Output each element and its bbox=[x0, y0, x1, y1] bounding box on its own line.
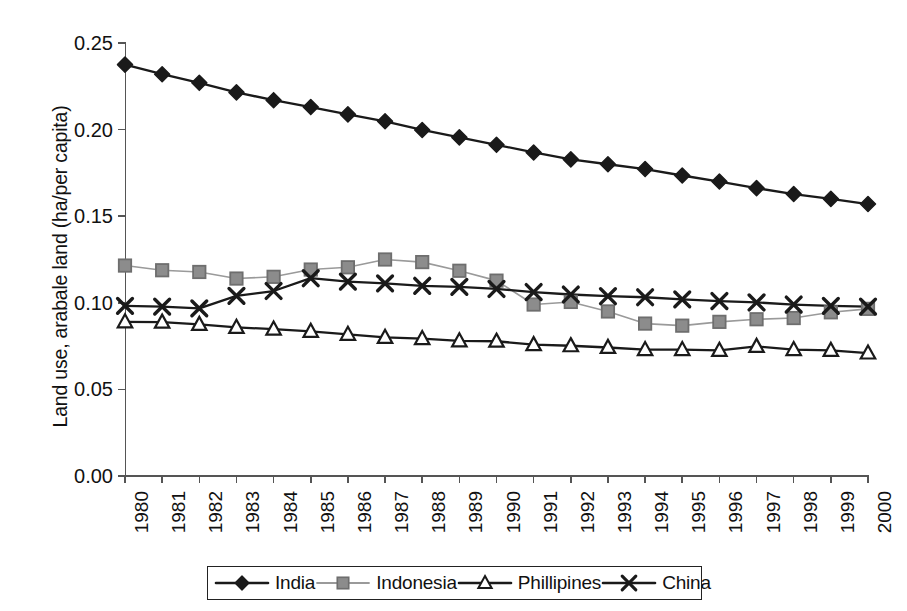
data-point bbox=[676, 319, 688, 331]
x-tick-label: 1994 bbox=[652, 491, 671, 533]
x-tick-label: 1998 bbox=[801, 491, 820, 533]
data-point bbox=[119, 259, 131, 271]
x-tick-label: 1986 bbox=[355, 491, 374, 533]
x-tick-label: 1982 bbox=[206, 491, 225, 533]
x-tick-label: 1980 bbox=[132, 491, 151, 533]
data-point bbox=[267, 271, 279, 283]
x-tick-label: 1988 bbox=[429, 491, 448, 533]
data-point bbox=[788, 312, 800, 324]
data-point bbox=[675, 168, 690, 183]
x-tick-mark bbox=[570, 475, 572, 483]
x-tick-mark bbox=[607, 475, 609, 483]
data-point bbox=[749, 181, 764, 196]
legend-marker-open-triangle bbox=[457, 572, 513, 594]
legend-marker-filled-diamond bbox=[214, 572, 270, 594]
legend-label: China bbox=[662, 572, 711, 594]
data-point bbox=[453, 265, 465, 277]
data-point bbox=[192, 75, 207, 90]
legend-marker-cross-x bbox=[601, 572, 657, 594]
legend-label: India bbox=[275, 572, 315, 594]
x-tick-label: 1984 bbox=[281, 491, 300, 533]
data-point bbox=[415, 122, 430, 137]
y-tick-label: 0.15 bbox=[74, 206, 113, 226]
data-point bbox=[193, 266, 205, 278]
data-point bbox=[750, 313, 762, 325]
x-tick-mark bbox=[830, 475, 832, 483]
data-point bbox=[340, 107, 355, 122]
data-point bbox=[342, 261, 354, 273]
data-point bbox=[639, 317, 651, 329]
plot-area: 0.000.050.100.150.200.25 198019811982198… bbox=[125, 43, 868, 475]
x-tick-label: 1991 bbox=[541, 491, 560, 533]
data-point bbox=[489, 137, 504, 152]
data-point bbox=[118, 57, 133, 72]
x-tick-mark bbox=[756, 475, 758, 483]
legend-marker-filled-square bbox=[315, 572, 371, 594]
x-tick-mark bbox=[793, 475, 795, 483]
x-tick-label: 1987 bbox=[392, 491, 411, 533]
x-tick-label: 1992 bbox=[578, 491, 597, 533]
data-point bbox=[526, 145, 541, 160]
data-point bbox=[527, 298, 539, 310]
data-point bbox=[378, 114, 393, 129]
markers-india bbox=[118, 57, 876, 211]
x-tick-mark bbox=[644, 475, 646, 483]
data-point bbox=[156, 264, 168, 276]
data-point bbox=[303, 100, 318, 115]
x-tick-label: 1996 bbox=[726, 491, 745, 533]
legend-item-india[interactable]: India bbox=[214, 572, 315, 594]
data-point bbox=[638, 162, 653, 177]
data-point bbox=[712, 174, 727, 189]
data-point bbox=[452, 130, 467, 145]
data-point bbox=[379, 253, 391, 265]
x-tick-mark bbox=[867, 475, 869, 483]
legend-item-china[interactable]: China bbox=[601, 572, 711, 594]
chart-container: Land use, arabale land (ha/per capita) 0… bbox=[0, 0, 907, 611]
x-tick-label: 1997 bbox=[764, 491, 783, 533]
y-tick-label: 0.10 bbox=[74, 293, 113, 313]
y-tick-label: 0.00 bbox=[74, 466, 113, 486]
x-tick-mark bbox=[199, 475, 201, 483]
data-point bbox=[563, 152, 578, 167]
legend-label: Phillipines bbox=[518, 572, 601, 594]
x-tick-mark bbox=[310, 475, 312, 483]
series-layer bbox=[125, 43, 868, 476]
data-point bbox=[416, 256, 428, 268]
x-tick-mark bbox=[719, 475, 721, 483]
data-point bbox=[600, 157, 615, 172]
x-tick-mark bbox=[459, 475, 461, 483]
x-tick-mark bbox=[533, 475, 535, 483]
x-tick-mark bbox=[496, 475, 498, 483]
x-tick-label: 1993 bbox=[615, 491, 634, 533]
x-tick-label: 1999 bbox=[838, 491, 857, 533]
x-tick-label: 1983 bbox=[243, 491, 262, 533]
x-tick-label: 1995 bbox=[689, 491, 708, 533]
x-tick-mark bbox=[421, 475, 423, 483]
y-tick-label: 0.25 bbox=[74, 33, 113, 53]
x-tick-mark bbox=[273, 475, 275, 483]
data-point bbox=[602, 305, 614, 317]
y-tick-label: 0.20 bbox=[74, 120, 113, 140]
data-point bbox=[713, 316, 725, 328]
legend-item-indonesia[interactable]: Indonesia bbox=[315, 572, 457, 594]
x-tick-mark bbox=[384, 475, 386, 483]
data-point bbox=[155, 67, 170, 82]
y-tick-label: 0.05 bbox=[74, 379, 113, 399]
data-point bbox=[786, 187, 801, 202]
legend-item-phillipines[interactable]: Phillipines bbox=[457, 572, 601, 594]
x-tick-mark bbox=[236, 475, 238, 483]
data-point bbox=[230, 272, 242, 284]
data-point bbox=[823, 191, 838, 206]
legend-label: Indonesia bbox=[376, 572, 457, 594]
x-tick-mark bbox=[124, 475, 126, 483]
x-tick-label: 1990 bbox=[504, 491, 523, 533]
x-tick-mark bbox=[347, 475, 349, 483]
x-tick-label: 1985 bbox=[318, 491, 337, 533]
data-point bbox=[229, 85, 244, 100]
data-point bbox=[266, 93, 281, 108]
x-tick-label: 1989 bbox=[466, 491, 485, 533]
chart-legend: IndiaIndonesiaPhillipinesChina bbox=[207, 566, 702, 600]
data-point bbox=[861, 197, 876, 212]
x-tick-mark bbox=[161, 475, 163, 483]
x-tick-label: 2000 bbox=[875, 491, 894, 533]
